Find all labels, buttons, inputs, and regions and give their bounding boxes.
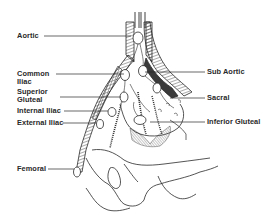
label-sacral: Sacral	[207, 94, 230, 102]
label-inferior-gluteal: Inferior Gluteal	[207, 118, 260, 126]
label-external-iliac: External Iliac	[17, 119, 63, 127]
label-femoral: Femoral	[17, 165, 46, 173]
label-internal-iliac: Internal Iliac	[17, 107, 61, 115]
pelvic-bone	[86, 149, 218, 210]
label-aortic: Aortic	[17, 32, 39, 40]
aorta-vessel	[135, 12, 145, 28]
label-sub-aortic: Sub Aortic	[207, 68, 245, 76]
label-common-iliac-line2: Iliac	[17, 78, 32, 86]
leader-lines	[44, 36, 205, 169]
lymph-node-diagram: Aortic Common Iliac Superior Gluteal Int…	[0, 0, 275, 222]
inferior-gluteal-muscle	[130, 126, 171, 147]
label-superior-gluteal-line2: Gluteal	[17, 96, 42, 104]
pelvic-cavity	[120, 104, 184, 136]
